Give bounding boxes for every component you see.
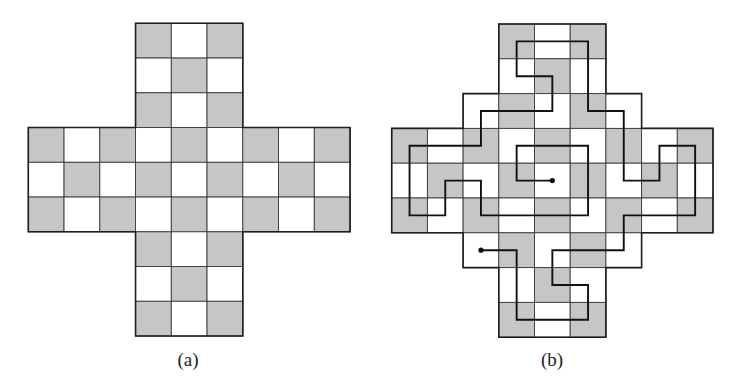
shaded-cell [207,301,243,336]
light-cell [64,128,100,163]
light-cell [243,162,279,197]
light-cell [171,162,207,197]
shaded-cell [314,197,350,232]
light-cell [171,232,207,267]
shaded-cell [64,162,100,197]
light-cell [279,197,315,232]
path-end-dot [550,178,555,183]
shaded-cell [100,128,136,163]
shaded-cell [207,23,243,58]
figure-a-checkerboard-cross [28,23,350,336]
shaded-cell [100,197,136,232]
shaded-cell [136,232,172,267]
light-cell [64,197,100,232]
cell-grid [28,23,350,336]
shaded-cell [207,162,243,197]
path-start-dot [478,248,483,253]
shaded-cell [243,197,279,232]
light-cell [136,267,172,302]
caption-a: (a) [177,350,198,369]
light-cell [207,267,243,302]
light-cell [136,128,172,163]
shaded-cell [136,93,172,128]
light-cell [171,301,207,336]
light-cell [207,128,243,163]
shaded-cell [207,93,243,128]
shaded-cell [314,128,350,163]
figure-canvas [0,0,733,391]
light-cell [279,128,315,163]
shaded-cell [171,128,207,163]
light-cell [207,197,243,232]
light-cell [136,58,172,93]
shaded-cell [171,267,207,302]
light-cell [171,93,207,128]
light-cell [171,23,207,58]
shaded-cell [171,58,207,93]
caption-b: (b) [541,350,563,369]
light-cell [136,197,172,232]
shaded-cell [279,162,315,197]
light-cell [28,162,64,197]
light-cell [314,162,350,197]
figure-b-checkerboard-path [392,24,713,337]
shaded-cell [136,162,172,197]
shaded-cell [243,128,279,163]
light-cell [207,58,243,93]
shaded-cell [171,197,207,232]
light-cell [100,162,136,197]
shaded-cell [28,197,64,232]
shaded-cell [136,301,172,336]
shaded-cell [207,232,243,267]
shaded-cell [28,128,64,163]
shaded-cell [136,23,172,58]
